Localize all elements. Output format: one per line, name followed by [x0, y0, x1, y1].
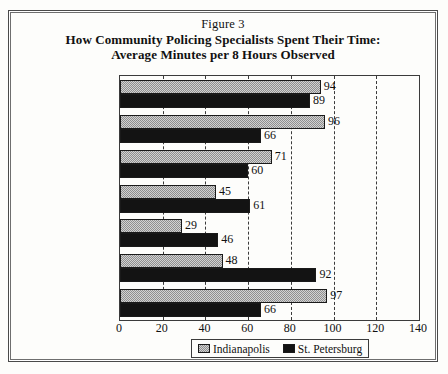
legend-item: St. Petersburg: [283, 343, 362, 355]
x-tick-label: 120: [366, 321, 384, 336]
bar: [120, 289, 327, 303]
legend-item: Indianapolis: [198, 343, 270, 355]
solid-black-swatch: [283, 344, 295, 353]
x-tick-label: 40: [198, 321, 210, 336]
bar: [120, 199, 250, 213]
bar: [120, 164, 248, 178]
figure-caption: Figure 3: [9, 17, 437, 32]
value-axis: 020406080100120140: [119, 321, 418, 339]
bar-value-label: 94: [324, 79, 336, 93]
x-tick-label: 0: [116, 321, 122, 336]
bar-group: 4561: [120, 181, 419, 216]
bar-value-label: 29: [185, 218, 197, 232]
figure-frame: Figure 3 How Community Policing Speciali…: [8, 10, 438, 362]
figure-title-line-1: How Community Policing Specialists Spent…: [9, 32, 437, 47]
bar-value-label: 66: [264, 302, 276, 316]
bar: [120, 129, 261, 143]
bar: [120, 303, 261, 317]
bar: [120, 219, 182, 233]
bar-value-label: 61: [253, 198, 265, 212]
bar: [120, 150, 272, 164]
bar-value-label: 45: [219, 184, 231, 198]
bar-value-label: 48: [226, 253, 238, 267]
bar-value-label: 71: [275, 149, 287, 163]
x-tick-label: 80: [284, 321, 296, 336]
bar: [120, 254, 223, 268]
bar-group: 7160: [120, 146, 419, 181]
bar: [120, 268, 316, 282]
bar-group: 9766: [120, 285, 419, 320]
bar: [120, 233, 218, 247]
bar-value-label: 66: [264, 128, 276, 142]
x-tick-label: 60: [241, 321, 253, 336]
bar-value-label: 92: [319, 267, 331, 281]
bar-value-label: 89: [313, 93, 325, 107]
plot-area: 9489966671604561294648929766: [119, 75, 420, 321]
figure-title-block: Figure 3 How Community Policing Speciali…: [9, 17, 437, 62]
bar-group: 9489: [120, 76, 419, 111]
bar-group: 4892: [120, 250, 419, 285]
legend-label: St. Petersburg: [298, 343, 362, 355]
bar: [120, 94, 310, 108]
figure-title-line-2: Average Minutes per 8 Hours Observed: [9, 47, 437, 62]
bar-group: 9666: [120, 111, 419, 146]
bar-group: 2946: [120, 215, 419, 250]
x-tick-label: 140: [409, 321, 427, 336]
chart-legend: IndianapolisSt. Petersburg: [191, 339, 369, 358]
bar-value-label: 60: [251, 163, 263, 177]
bar: [120, 80, 321, 94]
bar-value-label: 46: [221, 232, 233, 246]
bar: [120, 185, 216, 199]
legend-label: Indianapolis: [213, 343, 270, 355]
bar: [120, 115, 325, 129]
bar-value-label: 97: [330, 288, 342, 302]
bar-value-label: 96: [328, 114, 340, 128]
x-tick-label: 100: [324, 321, 342, 336]
light-dotted-swatch: [198, 344, 210, 353]
x-tick-label: 20: [156, 321, 168, 336]
bar-series-container: 9489966671604561294648929766: [120, 76, 419, 320]
